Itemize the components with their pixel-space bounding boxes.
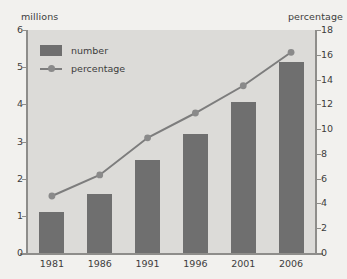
line-marker-1991	[144, 134, 151, 141]
right-tick-label-10: 10	[321, 124, 343, 134]
right-tick-mark-6	[317, 179, 321, 180]
left-tick-label-2: 2	[3, 174, 23, 184]
legend-swatch-number-icon	[40, 45, 62, 56]
x-axis-label-1986: 1986	[78, 258, 122, 269]
line-marker-1981	[49, 193, 56, 200]
legend-line-percentage-icon	[40, 63, 62, 74]
right-tick-label-16: 16	[321, 50, 343, 60]
legend-item-percentage: percentage	[40, 60, 125, 76]
line-marker-2006	[288, 49, 295, 56]
left-axis-line	[26, 30, 28, 255]
line-marker-1996	[192, 110, 199, 117]
right-tick-label-8: 8	[321, 149, 343, 159]
legend-label-percentage: percentage	[71, 63, 125, 74]
legend-item-number: number	[40, 42, 125, 58]
legend-label-number: number	[71, 45, 108, 56]
right-tick-mark-18	[317, 30, 321, 31]
right-axis-unit-label: percentage	[288, 11, 343, 22]
line-marker-1986	[96, 172, 103, 179]
right-tick-mark-8	[317, 154, 321, 155]
right-tick-label-18: 18	[321, 25, 343, 35]
left-tick-mark-1	[22, 216, 26, 217]
x-axis-label-2006: 2006	[269, 258, 313, 269]
right-tick-mark-14	[317, 80, 321, 81]
right-tick-label-4: 4	[321, 198, 343, 208]
chart-legend: number percentage	[40, 42, 125, 78]
right-tick-label-6: 6	[321, 174, 343, 184]
left-tick-label-1: 1	[3, 211, 23, 221]
x-axis-label-2001: 2001	[221, 258, 265, 269]
x-axis-label-1996: 1996	[173, 258, 217, 269]
left-tick-label-6: 6	[3, 25, 23, 35]
left-tick-label-4: 4	[3, 99, 23, 109]
right-tick-label-0: 0	[321, 248, 343, 258]
right-tick-mark-12	[317, 104, 321, 105]
right-tick-label-14: 14	[321, 75, 343, 85]
chart-container: millions percentage 0123456 024681012141…	[0, 0, 347, 279]
right-axis-line	[315, 30, 317, 255]
left-tick-label-5: 5	[3, 62, 23, 72]
left-tick-mark-5	[22, 67, 26, 68]
right-tick-mark-0	[317, 253, 321, 254]
bottom-axis-line	[20, 253, 323, 255]
left-tick-label-0: 0	[3, 248, 23, 258]
left-tick-mark-3	[22, 142, 26, 143]
right-tick-mark-16	[317, 55, 321, 56]
left-tick-mark-4	[22, 104, 26, 105]
right-tick-mark-2	[317, 228, 321, 229]
x-axis-label-1991: 1991	[126, 258, 170, 269]
left-axis-unit-label: millions	[21, 11, 58, 22]
right-tick-label-2: 2	[321, 223, 343, 233]
left-tick-mark-0	[22, 253, 26, 254]
right-tick-mark-4	[317, 203, 321, 204]
right-tick-label-12: 12	[321, 99, 343, 109]
left-tick-mark-6	[22, 30, 26, 31]
left-tick-label-3: 3	[3, 137, 23, 147]
line-marker-2001	[240, 82, 247, 89]
left-tick-mark-2	[22, 179, 26, 180]
x-axis-label-1981: 1981	[30, 258, 74, 269]
right-tick-mark-10	[317, 129, 321, 130]
